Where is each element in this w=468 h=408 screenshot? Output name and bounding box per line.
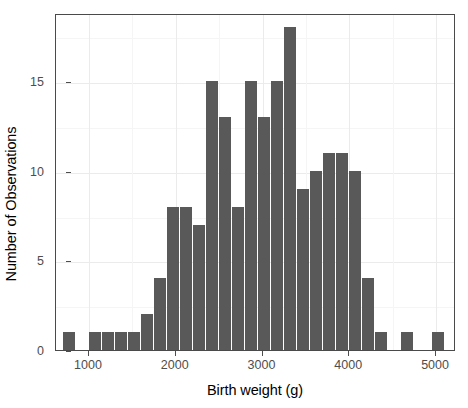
histogram-bar xyxy=(362,278,374,350)
histogram-bar xyxy=(271,81,283,350)
histogram-bar xyxy=(219,117,231,350)
y-tick-mark xyxy=(66,261,71,262)
histogram-bar xyxy=(115,332,127,350)
plot-panel xyxy=(55,14,455,351)
y-tick-mark xyxy=(66,82,71,83)
histogram-bar xyxy=(193,225,205,350)
histogram-bar xyxy=(102,332,114,350)
histogram-bar xyxy=(401,332,413,350)
x-tick-mark xyxy=(262,351,263,356)
gridline-h-minor xyxy=(56,38,454,39)
histogram-bar xyxy=(63,332,75,350)
histogram-bar xyxy=(284,27,296,350)
histogram-bar xyxy=(154,278,166,350)
x-tick-label: 1000 xyxy=(74,358,102,372)
x-tick-mark xyxy=(175,351,176,356)
histogram-bar xyxy=(141,314,153,350)
histogram-bar xyxy=(336,153,348,350)
histogram-bar xyxy=(89,332,101,350)
x-tick-label: 2000 xyxy=(161,358,189,372)
x-tick-mark xyxy=(435,351,436,356)
histogram-bar xyxy=(232,207,244,350)
histogram-bar xyxy=(180,207,192,350)
y-tick-mark xyxy=(66,351,71,352)
x-tick-label: 3000 xyxy=(248,358,276,372)
histogram-bar xyxy=(245,81,257,350)
gridline-v-major xyxy=(89,15,90,350)
x-tick-label: 4000 xyxy=(334,358,362,372)
gridline-v-minor xyxy=(132,15,133,350)
gridline-v-minor xyxy=(393,15,394,350)
x-tick-mark xyxy=(348,351,349,356)
histogram-bar xyxy=(128,332,140,350)
y-tick-mark xyxy=(66,172,71,173)
y-axis-title: Number of Observations xyxy=(0,0,22,408)
x-tick-mark xyxy=(88,351,89,356)
histogram-bar xyxy=(375,332,387,350)
histogram-bar xyxy=(258,117,270,350)
histogram-bar xyxy=(432,332,444,350)
histogram-bar xyxy=(297,189,309,350)
histogram-chart: 051015 10002000300040005000 Number of Ob… xyxy=(0,0,468,408)
histogram-bar xyxy=(206,81,218,350)
histogram-bar xyxy=(323,153,335,350)
x-axis-title: Birth weight (g) xyxy=(55,382,455,398)
x-tick-label: 5000 xyxy=(421,358,449,372)
histogram-bar xyxy=(349,171,361,350)
histogram-bar xyxy=(167,207,179,350)
gridline-v-major xyxy=(436,15,437,350)
histogram-bar xyxy=(310,171,322,350)
